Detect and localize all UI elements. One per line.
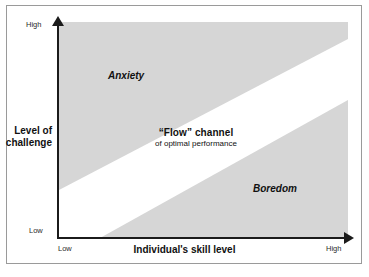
y-axis-title-line1: Level of <box>14 125 52 136</box>
flow-channel-subtitle: of optimal performance <box>131 139 261 148</box>
flow-channel-label: “Flow” channel of optimal performance <box>131 127 261 148</box>
y-axis-line <box>57 24 59 239</box>
y-axis-tick-high: High <box>26 21 41 30</box>
flow-diagram-figure: High Low Low High Level of challenge Ind… <box>0 0 369 277</box>
y-axis-title-line2: challenge <box>6 137 52 148</box>
anxiety-region-label: Anxiety <box>108 70 144 82</box>
x-axis-title: Individual's skill level <box>0 244 369 256</box>
y-axis-tick-low: Low <box>29 227 43 236</box>
flow-channel-title: “Flow” channel <box>131 127 261 138</box>
x-axis-right-arrow-icon <box>344 232 354 244</box>
y-axis-up-arrow-icon <box>52 16 64 26</box>
x-axis-line <box>57 237 346 239</box>
y-axis-title: Level of challenge <box>0 125 52 149</box>
boredom-region-label: Boredom <box>253 183 297 195</box>
